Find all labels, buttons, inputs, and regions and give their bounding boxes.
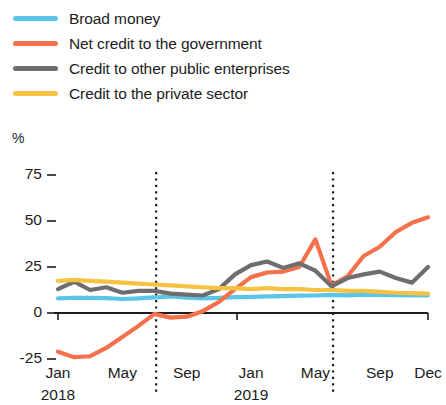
x-axis-year-label: 2019 xyxy=(221,386,281,404)
x-axis-tick-label: May xyxy=(285,364,345,382)
x-axis-tick-label: Dec xyxy=(398,364,446,382)
x-axis-tick-label: Jan xyxy=(221,364,281,382)
series-line-broad-money xyxy=(58,295,428,299)
y-axis-tick-label: 25 xyxy=(0,257,42,275)
y-axis-tick-label: 75 xyxy=(0,165,42,183)
x-axis-tick-label: Jan xyxy=(28,364,88,382)
y-axis-tick-label: 0 xyxy=(0,303,42,321)
x-axis-tick-label: May xyxy=(92,364,152,382)
x-axis-year-label: 2018 xyxy=(28,386,88,404)
x-axis-tick-label: Sep xyxy=(157,364,217,382)
y-axis-tick-label: 50 xyxy=(0,211,42,229)
